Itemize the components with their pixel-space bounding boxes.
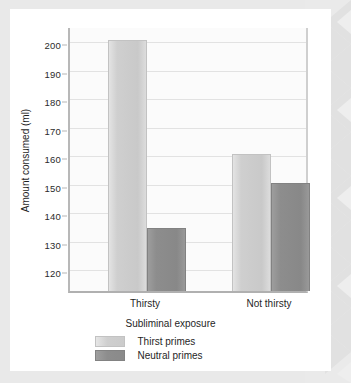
bar: [147, 228, 186, 291]
y-tick-label: 190: [45, 68, 61, 79]
legend-swatch: [95, 336, 125, 347]
figure-card: Amount consumed (ml) 1201301401501601701…: [10, 9, 331, 371]
y-tick-mark: [62, 130, 67, 131]
gridline: [70, 71, 306, 72]
y-tick-mark: [62, 45, 67, 46]
x-category-label: Not thirsty: [246, 298, 291, 309]
x-axis-title-text: Subliminal exposure: [125, 318, 215, 329]
y-tick-label: 130: [45, 239, 61, 250]
y-tick-mark: [62, 73, 67, 74]
legend-item: Neutral primes: [95, 350, 247, 361]
y-tick-label: 170: [45, 125, 61, 136]
y-tick-label: 140: [45, 211, 61, 222]
gridline: [70, 128, 306, 129]
legend-label: Thirst primes: [138, 336, 196, 347]
legend-swatch: [95, 350, 125, 361]
chart-legend: Thirst primesNeutral primes: [10, 336, 331, 361]
bar: [108, 40, 147, 291]
y-tick-label: 150: [45, 182, 61, 193]
y-tick-mark: [62, 216, 67, 217]
gridline: [70, 99, 306, 100]
y-tick-label: 120: [45, 268, 61, 279]
gridline: [70, 42, 306, 43]
y-tick-label: 180: [45, 97, 61, 108]
bar: [271, 183, 310, 291]
y-tick-mark: [62, 187, 67, 188]
y-tick-mark: [62, 273, 67, 274]
legend-label: Neutral primes: [138, 350, 203, 361]
y-axis-title: Amount consumed (ml): [19, 28, 33, 293]
legend-item: Thirst primes: [95, 336, 247, 347]
plot-area: [68, 28, 308, 293]
plot-frame: 120130140150160170180190200: [68, 28, 308, 293]
y-axis-title-text: Amount consumed (ml): [21, 109, 32, 212]
y-tick-mark: [62, 102, 67, 103]
y-tick-mark: [62, 244, 67, 245]
y-tick-mark: [62, 159, 67, 160]
bar: [232, 154, 271, 291]
x-axis-title: Subliminal exposure: [10, 318, 331, 329]
x-category-label: Thirsty: [130, 298, 160, 309]
y-tick-label: 160: [45, 154, 61, 165]
y-tick-label: 200: [45, 40, 61, 51]
